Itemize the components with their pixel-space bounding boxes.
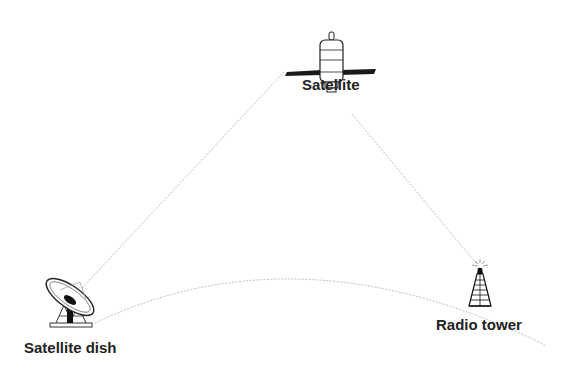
link-satellite-tower — [352, 114, 480, 268]
satellite-label: Satellite — [302, 76, 360, 93]
radio-tower-label: Radio tower — [436, 316, 522, 333]
satellite-dish-label: Satellite dish — [24, 339, 117, 356]
satellite-dish-icon — [41, 272, 99, 327]
link-dish-satellite — [82, 72, 284, 288]
radio-tower-icon — [469, 259, 491, 306]
